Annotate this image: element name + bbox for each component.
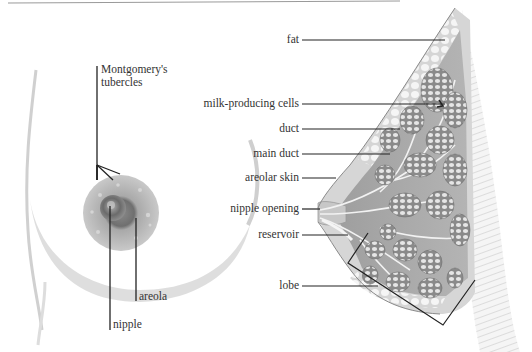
breast-anatomy-diagram: Montgomery's tubercles areola nipple fat… xyxy=(0,0,532,352)
label-areolar-skin: areolar skin xyxy=(99,171,299,184)
label-main-duct: main duct xyxy=(99,147,299,160)
label-duct: duct xyxy=(99,122,299,135)
label-lobe: lobe xyxy=(99,279,299,292)
label-milk-producing-cells: milk-producing cells xyxy=(99,97,299,110)
label-montgomerys-tubercles: Montgomery's tubercles xyxy=(101,63,168,89)
label-reservoir: reservoir xyxy=(99,228,299,241)
label-tubercles-line2: tubercles xyxy=(101,76,168,89)
cross-section xyxy=(318,8,520,352)
label-montgomerys-line1: Montgomery's xyxy=(101,63,168,76)
top-rule xyxy=(8,1,400,3)
label-nipple: nipple xyxy=(113,318,142,331)
label-fat: fat xyxy=(99,33,299,46)
label-nipple-opening: nipple opening xyxy=(99,202,299,215)
